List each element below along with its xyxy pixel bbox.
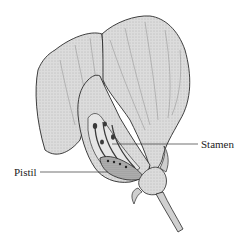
flower-diagram: [0, 0, 250, 248]
stem: [156, 192, 183, 232]
stamen-label: Stamen: [201, 138, 234, 150]
sepal-left: [132, 188, 142, 204]
pistil-label: Pistil: [14, 166, 37, 178]
